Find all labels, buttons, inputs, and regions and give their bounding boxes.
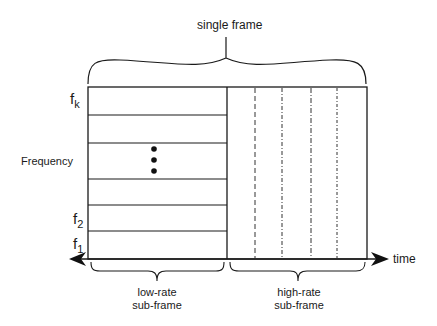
high-rate-slot-lines xyxy=(255,88,337,258)
frequency-label-f2-sub: 2 xyxy=(77,218,83,230)
frequency-label-fk: fk xyxy=(70,90,80,110)
low-rate-subframe-label: low-rate sub-frame xyxy=(127,286,187,312)
time-axis-label: time xyxy=(393,252,416,266)
frequency-label-f2: f2 xyxy=(73,210,83,230)
high-rate-line1: high-rate xyxy=(268,286,330,299)
single-frame-label: single frame xyxy=(197,18,262,32)
ellipsis-dots xyxy=(151,146,157,174)
frequency-label-f1-sub: 1 xyxy=(77,243,83,255)
frequency-axis-label: Frequency xyxy=(21,155,73,167)
high-rate-brace xyxy=(230,262,365,281)
low-rate-brace xyxy=(91,262,224,281)
frequency-label-f1: f1 xyxy=(73,235,83,255)
frequency-rows xyxy=(88,115,227,231)
low-rate-line2: sub-frame xyxy=(127,299,187,312)
high-rate-subframe-label: high-rate sub-frame xyxy=(268,286,330,312)
single-frame-brace xyxy=(88,37,366,84)
frequency-label-fk-sub: k xyxy=(74,98,80,110)
low-rate-line1: low-rate xyxy=(127,286,187,299)
high-rate-line2: sub-frame xyxy=(268,299,330,312)
